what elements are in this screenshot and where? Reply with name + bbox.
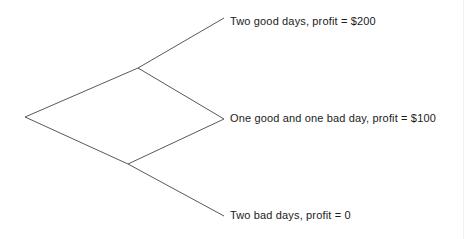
edge-root-to-lower xyxy=(25,117,128,164)
edge-upper-to-leaf-top xyxy=(138,18,224,68)
leaf-label-one-good-one-bad-day: One good and one bad day, profit = $100 xyxy=(230,112,436,125)
diagram-canvas: Two good days, profit = $200 One good an… xyxy=(0,0,473,239)
edge-lower-to-leaf-middle xyxy=(128,119,224,164)
leaf-label-two-good-days: Two good days, profit = $200 xyxy=(230,15,376,28)
edge-upper-to-leaf-middle xyxy=(138,68,224,119)
leaf-label-two-bad-days: Two bad days, profit = 0 xyxy=(230,209,351,222)
edge-lower-to-leaf-bottom xyxy=(128,164,224,216)
edge-root-to-upper xyxy=(25,68,138,117)
